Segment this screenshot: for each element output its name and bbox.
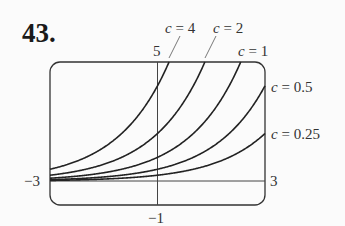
label-c1: c = 1 [238,43,268,59]
label-c4: c = 4 [165,20,196,36]
y-max-label: 5 [153,43,161,59]
curve-c4 [50,62,169,169]
label-c025: c = 0.25 [271,126,320,142]
curve-c2 [50,62,205,175]
y-min-label: −1 [148,210,164,226]
x-min-label: −3 [24,173,40,189]
pointer-c4 [169,36,180,58]
label-c2: c = 2 [213,20,243,36]
label-c05: c = 0.5 [271,79,312,95]
pointer-c2 [205,36,216,58]
x-max-label: 3 [270,173,278,189]
graph: −3 3 5 −1 c = 4 c = 2 c = 1 c = 0.5 c = … [0,0,345,226]
